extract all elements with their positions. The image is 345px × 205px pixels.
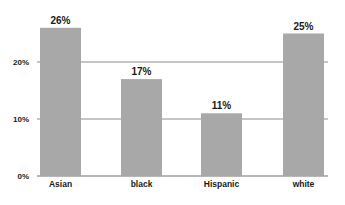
category-label: white <box>292 179 315 189</box>
bar-black <box>121 79 162 176</box>
y-tick-label: 10% <box>13 115 29 124</box>
bar-hispanic <box>201 113 242 176</box>
bar-chart: 0%10%20%26%Asian17%black11%Hispanic25%wh… <box>0 0 345 205</box>
bar-asian <box>40 28 81 176</box>
y-tick-label: 20% <box>13 58 29 67</box>
value-label: 11% <box>212 100 232 111</box>
category-label: black <box>131 179 153 189</box>
value-label: 26% <box>50 15 70 26</box>
category-label: Asian <box>49 179 72 189</box>
value-label: 17% <box>131 66 151 77</box>
bar-white <box>283 34 324 177</box>
bars <box>40 28 324 176</box>
y-tick-label: 0% <box>17 172 29 181</box>
value-label: 25% <box>293 21 313 32</box>
category-label: Hispanic <box>204 179 240 189</box>
